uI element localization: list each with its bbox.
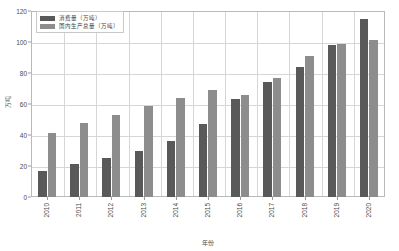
legend-label: 消费量（万吨） [59, 14, 101, 22]
bar [305, 56, 314, 197]
bar [38, 171, 47, 197]
x-tick-mark [240, 197, 241, 200]
bar-group [63, 11, 95, 197]
x-tick-mark [79, 197, 80, 200]
x-tick-label: 2015 [204, 203, 211, 217]
bar [112, 115, 121, 197]
x-axis-title: 年份 [31, 238, 385, 247]
x-tick-mark [111, 197, 112, 200]
legend-item[interactable]: 消费量（万吨） [40, 14, 119, 22]
x-tick-label: 2019 [333, 203, 340, 217]
bar [144, 106, 153, 197]
x-tick-label: 2020 [365, 203, 372, 217]
x-tick-mark [337, 197, 338, 200]
x-tick-label: 2010 [43, 203, 50, 217]
x-tick-mark [305, 197, 306, 200]
x-tick-mark [272, 197, 273, 200]
x-tick-label: 2018 [301, 203, 308, 217]
x-tick-mark [144, 197, 145, 200]
y-tick-label: 20 [20, 163, 27, 170]
y-tick-label: 40 [20, 132, 27, 139]
bar [263, 82, 272, 197]
x-tick-mark [208, 197, 209, 200]
chart-legend: 消费量（万吨）国内生产总量（万吨） [36, 11, 124, 33]
x-tick-label: 2016 [236, 203, 243, 217]
x-tick-mark [176, 197, 177, 200]
bar [231, 99, 240, 197]
bar-group [353, 11, 385, 197]
x-tick-mark [369, 197, 370, 200]
bar-group [128, 11, 160, 197]
y-tick-label: 0 [23, 194, 27, 201]
bar [241, 95, 250, 197]
bars-layer [31, 11, 385, 197]
legend-item[interactable]: 国内生产总量（万吨） [40, 22, 119, 30]
bar-group [288, 11, 320, 197]
bar [80, 123, 89, 197]
legend-label: 国内生产总量（万吨） [59, 22, 119, 30]
bar [167, 141, 176, 197]
bar-group [192, 11, 224, 197]
bar-chart-figure: 020406080100120 万吨 201020112012201320142… [0, 0, 399, 251]
x-tick-label: 2011 [75, 203, 82, 217]
bar [135, 151, 144, 198]
legend-swatch-icon [40, 16, 55, 21]
y-axis-title: 万吨 [3, 82, 12, 122]
bar [199, 124, 208, 197]
y-tick-label: 80 [20, 70, 27, 77]
y-tick-label: 60 [20, 101, 27, 108]
bar-group [224, 11, 256, 197]
bar [296, 67, 305, 197]
bar [70, 164, 79, 197]
legend-swatch-icon [40, 24, 55, 29]
bar-group [256, 11, 288, 197]
bar [369, 40, 378, 197]
y-tick-label: 100 [16, 39, 27, 46]
x-tick-label: 2017 [268, 203, 275, 217]
bar [328, 45, 337, 197]
bar [176, 98, 185, 197]
y-tick-label: 120 [16, 8, 27, 15]
bar [337, 44, 346, 197]
bar-group [321, 11, 353, 197]
bar-group [160, 11, 192, 197]
bar-group [95, 11, 127, 197]
x-tick-label: 2012 [107, 203, 114, 217]
x-tick-mark [47, 197, 48, 200]
bar [102, 158, 111, 197]
bar-group [31, 11, 63, 197]
bar [273, 78, 282, 197]
x-tick-label: 2013 [140, 203, 147, 217]
bar [48, 133, 57, 197]
bar [360, 19, 369, 197]
x-tick-label: 2014 [172, 203, 179, 217]
bar [208, 90, 217, 197]
